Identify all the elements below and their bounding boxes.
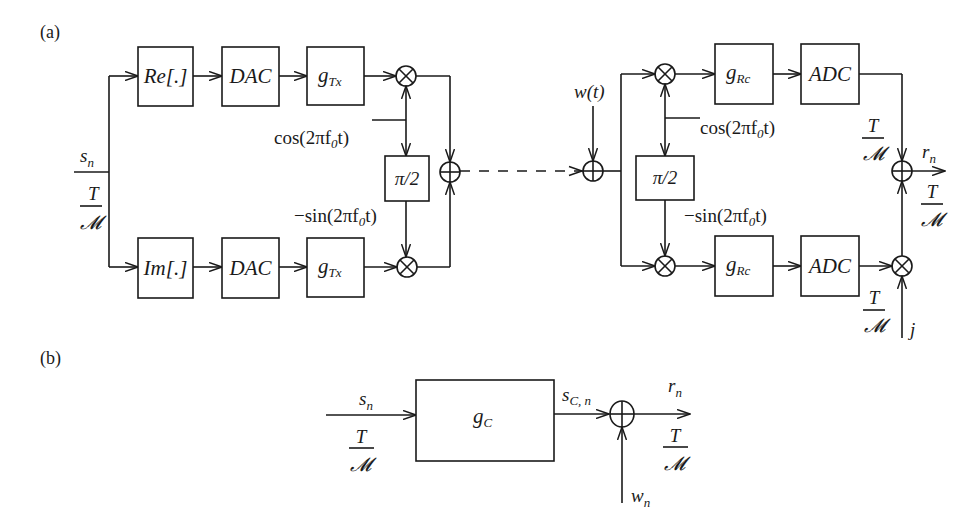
tx-rate-num: T <box>88 183 100 204</box>
tx-rate-den: 𝓜 <box>80 212 107 233</box>
rx-output-adder: rn T 𝓜 <box>892 141 948 230</box>
adc-label-upper: ADC <box>807 62 852 86</box>
rx-rate-den-upper: 𝓜 <box>863 143 890 164</box>
b-rate-den-out: 𝓜 <box>664 453 691 474</box>
im-label: Im[.] <box>143 256 188 280</box>
rx-phase-shift-label: π/2 <box>653 167 678 188</box>
tx-carrier: cos(2πf0t) π/2 −sin(2πf0t) <box>274 86 429 257</box>
panel-b-label: (b) <box>40 348 61 369</box>
tx-input-signal: sn <box>80 145 94 170</box>
rx-output-signal: rn <box>922 141 936 166</box>
rx-rate-num-upper: T <box>868 115 880 136</box>
rx-rate-num-lower: T <box>869 287 881 308</box>
channel-output-signal: sC, n <box>562 384 591 408</box>
panel-a-label: (a) <box>40 22 60 43</box>
rx-carrier: cos(2πf0t) π/2 −sin(2πf0t) <box>636 84 775 256</box>
adc-label-lower: ADC <box>807 254 852 278</box>
tx-sin-label: −sin(2πf0t) <box>294 205 377 229</box>
b-output-signal: rn <box>668 375 682 400</box>
tx-phase-shift-label: π/2 <box>395 168 420 189</box>
noise-label: w(t) <box>574 81 605 103</box>
b-rate-den-in: 𝓜 <box>350 454 377 475</box>
rx-multiplier-j <box>892 256 912 276</box>
rx-sin-label: −sin(2πf0t) <box>684 205 767 229</box>
rx-multiplier-upper <box>655 64 675 84</box>
dac-label-lower: DAC <box>229 256 273 280</box>
rx-multiplier-lower <box>655 256 675 276</box>
re-label: Re[.] <box>143 64 188 88</box>
tx-cos-label: cos(2πf0t) <box>274 127 349 151</box>
tx-input: sn T 𝓜 <box>74 76 138 267</box>
rx-cos-label: cos(2πf0t) <box>700 117 775 141</box>
b-input-signal: sn <box>359 388 373 413</box>
b-rate-num-in: T <box>356 426 368 447</box>
b-rate-num-out: T <box>670 425 682 446</box>
b-noise-label: wn <box>631 485 650 510</box>
rx-upper-branch: gRc ADC T 𝓜 <box>655 44 902 164</box>
tx-multiplier-lower <box>397 257 417 277</box>
tx-multiplier-upper <box>396 66 416 86</box>
block-diagram: (a) sn T 𝓜 Re[.] DAC gTx cos <box>0 0 977 532</box>
panel-b-diagram: sn T 𝓜 gC sC, n wn rn T 𝓜 <box>326 375 691 510</box>
rx-rate-den-lower: 𝓜 <box>864 315 891 336</box>
dac-label-upper: DAC <box>229 64 273 88</box>
tx-adder <box>440 162 460 182</box>
imag-unit-label: j <box>907 319 915 340</box>
rx-rate-num-out: T <box>927 181 939 202</box>
rx-rate-den-out: 𝓜 <box>921 209 948 230</box>
